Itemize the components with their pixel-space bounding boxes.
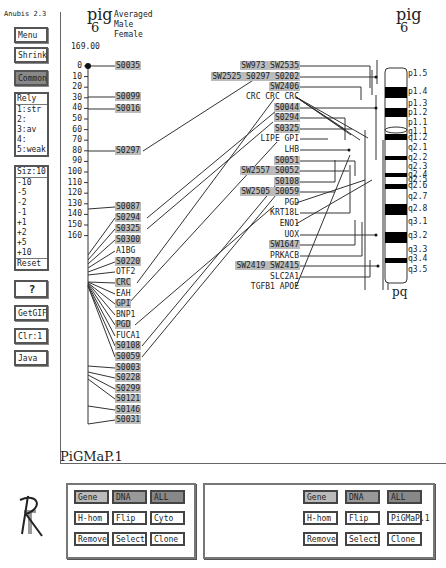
right-marker[interactable]: TGFB1 APOE: [250, 282, 300, 291]
left-marker[interactable]: S0299: [115, 384, 141, 393]
band-label: p1.2: [408, 108, 427, 117]
axis-tick-label: 120: [57, 188, 82, 197]
flip-button[interactable]: Flip: [345, 511, 380, 525]
axis-tick-label: 130: [57, 199, 82, 208]
right-control-panel: Gene DNA ALL H-hom Flip PiGMaP.1 Remove …: [203, 483, 435, 559]
left-marker[interactable]: FUCA1: [115, 331, 141, 340]
left-marker[interactable]: S0294: [115, 213, 141, 222]
chromosome-ideogram: [385, 68, 407, 283]
left-marker[interactable]: S0220: [115, 257, 141, 266]
left-marker[interactable]: S0146: [115, 405, 141, 414]
left-marker[interactable]: S0087: [115, 202, 141, 211]
axis-tick-label: 0: [57, 61, 82, 70]
band-label: q3.5: [408, 265, 427, 274]
left-marker[interactable]: S0108: [115, 341, 141, 350]
clone-button[interactable]: Clone: [387, 532, 422, 546]
right-marker[interactable]: SW2419 SW2415: [235, 261, 300, 270]
left-marker[interactable]: S0016: [115, 104, 141, 113]
right-marker[interactable]: SW2557 S0052: [240, 166, 300, 175]
left-marker[interactable]: S0059: [115, 352, 141, 361]
right-marker[interactable]: S0051: [274, 156, 300, 165]
right-marker[interactable]: LHB: [284, 145, 300, 154]
left-marker[interactable]: GPI: [115, 299, 131, 308]
h-hom-button[interactable]: H-hom: [303, 511, 338, 525]
right-marker[interactable]: SW2505 S0059: [240, 187, 300, 196]
select-button[interactable]: Select: [112, 532, 147, 546]
left-marker[interactable]: S0121: [115, 394, 141, 403]
logo-icon: [14, 492, 46, 538]
axis-tick-label: 140: [57, 209, 82, 218]
right-marker[interactable]: SW2406: [269, 82, 300, 91]
right-marker[interactable]: S0294: [274, 113, 300, 122]
axis-tick-label: 50: [57, 114, 82, 123]
right-marker[interactable]: KRT18L: [269, 208, 300, 217]
band-label: q3.4: [408, 254, 427, 263]
all-button[interactable]: ALL: [150, 490, 185, 504]
gene-button[interactable]: Gene: [303, 490, 338, 504]
left-marker[interactable]: CRC: [115, 278, 131, 287]
right-marker[interactable]: SW1647: [269, 240, 300, 249]
h-hom-button[interactable]: H-hom: [74, 511, 109, 525]
left-marker[interactable]: S0297: [115, 146, 141, 155]
right-marker[interactable]: SW2525 S0297 S0202: [211, 72, 300, 81]
right-marker[interactable]: PRKACB: [269, 251, 300, 260]
flip-button[interactable]: Flip: [112, 511, 147, 525]
band-label: q3.3: [408, 245, 427, 254]
axis-tick-label: 70: [57, 135, 82, 144]
left-control-panel: Gene DNA ALL H-hom Flip Cyto Remove Sele…: [66, 483, 196, 559]
left-marker[interactable]: BNP1: [115, 310, 136, 319]
left-marker[interactable]: S0325: [115, 224, 141, 233]
clone-button[interactable]: Clone: [150, 532, 185, 546]
axis-tick-label: 60: [57, 125, 82, 134]
right-marker[interactable]: S0108: [274, 177, 300, 186]
left-marker[interactable]: S0300: [115, 235, 141, 244]
axis-tick-label: 20: [57, 82, 82, 91]
left-marker[interactable]: S0003: [115, 363, 141, 372]
band-label: q2.7: [408, 192, 427, 201]
axis-tick-label: 100: [57, 167, 82, 176]
axis-tick-label: 30: [57, 93, 82, 102]
left-marker[interactable]: S0035: [115, 61, 141, 70]
band-label: q3.1: [408, 217, 427, 226]
axis-tick-label: 150: [57, 220, 82, 229]
remove-button[interactable]: Remove: [303, 532, 338, 546]
axis-tick-label: 10: [57, 72, 82, 81]
right-marker[interactable]: S0044: [274, 103, 300, 112]
left-marker[interactable]: A1BG: [115, 246, 136, 255]
axis-tick-label: 40: [57, 103, 82, 112]
axis-tick-label: 160: [57, 231, 82, 240]
map-select-button[interactable]: PiGMaP.1: [387, 511, 422, 525]
left-marker[interactable]: S0228: [115, 373, 141, 382]
gene-button[interactable]: Gene: [74, 490, 109, 504]
all-button[interactable]: ALL: [387, 490, 422, 504]
band-label: q2.2: [408, 153, 427, 162]
right-marker[interactable]: SLC2A1: [269, 272, 300, 281]
band-label: p1.3: [408, 99, 427, 108]
dna-button[interactable]: DNA: [345, 490, 380, 504]
remove-button[interactable]: Remove: [74, 532, 109, 546]
right-marker[interactable]: SW973 SW2535: [240, 61, 300, 70]
left-marker[interactable]: S0031: [115, 415, 141, 424]
band-label: q2.8: [408, 204, 427, 213]
axis-tick-label: 110: [57, 178, 82, 187]
axis-tick-label: 90: [57, 156, 82, 165]
select-button[interactable]: Select: [345, 532, 380, 546]
right-marker[interactable]: S0325: [274, 124, 300, 133]
band-label: q2.1: [408, 143, 427, 152]
right-marker[interactable]: PGD: [284, 198, 300, 207]
band-label: p1.1: [408, 118, 427, 127]
right-marker[interactable]: CRC CRC CRC: [245, 92, 300, 101]
left-marker[interactable]: PGD: [115, 320, 131, 329]
map-name-label: PiGMaP.1: [60, 449, 123, 464]
left-marker[interactable]: S0099: [115, 92, 141, 101]
left-marker[interactable]: OTF2: [115, 267, 136, 276]
axis-tick-label: 80: [57, 146, 82, 155]
left-marker[interactable]: EAH: [115, 289, 131, 298]
dna-button[interactable]: DNA: [112, 490, 147, 504]
right-marker[interactable]: UOX: [284, 230, 300, 239]
cyto-button[interactable]: Cyto: [150, 511, 185, 525]
right-marker[interactable]: ENO1: [279, 219, 300, 228]
right-marker[interactable]: LIPE GPI: [259, 134, 300, 143]
band-label: q2.6: [408, 181, 427, 190]
band-label: p1.4: [408, 87, 427, 96]
